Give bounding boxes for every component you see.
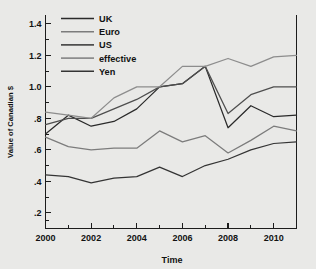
y-tick-label: .4 xyxy=(34,177,42,187)
legend-label-uk: UK xyxy=(99,14,113,24)
legend-label-effective: effective xyxy=(99,54,136,64)
x-tick-label: 2006 xyxy=(172,233,192,243)
y-tick-label: .8 xyxy=(34,114,42,124)
x-tick-label: 2004 xyxy=(127,233,147,243)
y-tick-label: 1.4 xyxy=(29,19,42,29)
y-axis-title: Value of Canadian $ xyxy=(6,85,15,158)
legend-label-yen: Yen xyxy=(99,67,116,77)
y-tick-label: 1.0 xyxy=(29,82,42,92)
chart-canvas: 1.41.21.0.8.6.4.2 2000200220042006200820… xyxy=(0,0,316,269)
y-tick-label: .2 xyxy=(34,208,42,218)
x-tick-label: 2008 xyxy=(218,233,238,243)
legend-label-euro: Euro xyxy=(99,27,120,37)
y-tick-label: .6 xyxy=(34,145,42,155)
x-tick-label: 2002 xyxy=(81,233,101,243)
line-chart: 1.41.21.0.8.6.4.2 2000200220042006200820… xyxy=(0,0,316,269)
x-tick-label: 2000 xyxy=(35,233,55,243)
legend-label-us: US xyxy=(99,40,112,50)
x-tick-label: 2010 xyxy=(264,233,284,243)
x-axis-title: Time xyxy=(162,255,183,265)
y-tick-label: 1.2 xyxy=(29,51,42,61)
